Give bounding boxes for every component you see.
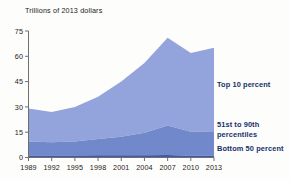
area-top-10-percent [29,38,215,143]
y-axis-ticks [25,31,29,158]
y-axis-tick-label: 15 [5,128,23,137]
x-axis-ticks [29,158,215,162]
area-series-group [29,38,215,158]
x-axis-tick-label: 2013 [200,163,228,172]
series-label-51st-to-90th-percentiles: 51st to 90th percentiles [217,120,259,139]
y-axis-tick-label: 45 [5,77,23,86]
y-axis-tick-label: 30 [5,103,23,112]
y-axis-tick-label: 75 [5,27,23,36]
y-axis-tick-label: 0 [5,153,23,162]
y-axis-tick-label: 60 [5,52,23,61]
chart-page: Trillions of 2013 dollars 01530456075 19… [0,0,290,179]
series-label-line-1: 51st to 90th [217,120,259,129]
series-label-bottom-50-percent: Bottom 50 percent [217,144,284,154]
series-label-top-10-percent: Top 10 percent [217,80,270,90]
series-label-line-2: percentiles [217,130,257,139]
